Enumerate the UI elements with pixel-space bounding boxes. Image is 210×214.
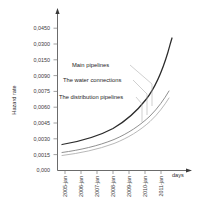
curve-main-pipelines [62, 38, 172, 145]
x-axis-arrowhead [186, 168, 192, 172]
y-tick-marks [54, 28, 58, 154]
y-tick-label: 0,0045 [34, 120, 51, 126]
x-axis-title-text: days [172, 172, 184, 178]
hazard-rate-chart: Hazard rate 0,0450 0,0300 0,0150 0,0090 … [0, 0, 210, 214]
y-tick-label: 0,0150 [34, 57, 51, 63]
y-tick-label: 0,000 [37, 167, 51, 173]
x-tick-labels: 2005-jan 2006-jan 2007-jan 2008-jan 2009… [62, 176, 164, 197]
y-tick-label: 0,0300 [34, 41, 51, 47]
y-tick-label: 0,0060 [34, 104, 51, 110]
annotation-main-pipelines: Main pipelines [72, 62, 109, 68]
y-axis-arrowhead [55, 8, 59, 14]
annotation-water-connections: The water connections [63, 77, 121, 83]
x-tick-label: 2009-jan [126, 176, 132, 197]
x-tick-label: 2008-jan [110, 176, 116, 197]
y-tick-label: 0,0450 [34, 25, 51, 31]
annotation-labels: Main pipelines The water connections The… [59, 62, 123, 100]
x-tick-marks [65, 171, 161, 175]
chart-canvas: Hazard rate 0,0450 0,0300 0,0150 0,0090 … [0, 0, 210, 214]
x-tick-label: 2011-jan [158, 176, 164, 197]
y-tick-label: 0,0030 [34, 136, 51, 142]
leader-line-water-connections [133, 80, 147, 115]
x-tick-label: 2006-jan [78, 176, 84, 197]
y-axis [55, 8, 59, 171]
x-tick-label: 2005-jan [62, 176, 68, 197]
y-tick-label: 0,0075 [34, 88, 51, 94]
y-axis-title-text: Hazard rate [11, 85, 17, 114]
leader-line-main-pipelines [130, 65, 152, 106]
y-tick-label: 0,0090 [34, 73, 51, 79]
x-tick-label: 2010-jan [142, 176, 148, 197]
y-axis-title: Hazard rate [11, 85, 17, 114]
annotation-distribution-pipelines: The distribution pipelines [59, 94, 123, 100]
y-tick-label: 0,0015 [34, 152, 51, 158]
y-tick-labels: 0,0450 0,0300 0,0150 0,0090 0,0075 0,006… [34, 25, 51, 173]
x-tick-label: 2007-jan [94, 176, 100, 197]
